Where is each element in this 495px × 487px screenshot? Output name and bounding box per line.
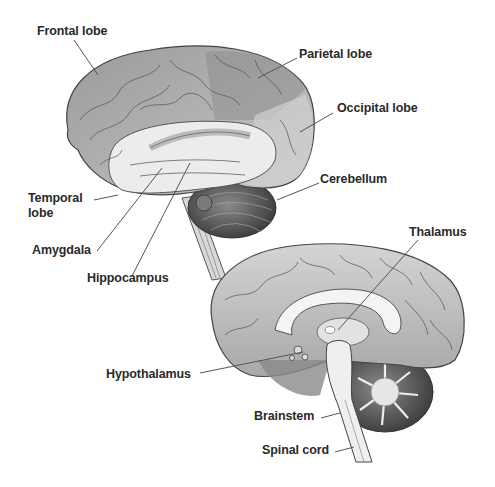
label-spinal-cord: Spinal cord [262, 443, 329, 458]
label-hippocampus: Hippocampus [87, 271, 169, 286]
label-amygdala: Amygdala [32, 243, 91, 258]
label-cerebellum: Cerebellum [320, 172, 387, 187]
label-temporal-line1: Temporal [28, 191, 83, 206]
label-temporal-lobe: Temporal lobe [28, 191, 83, 221]
label-frontal-lobe: Frontal lobe [37, 24, 107, 39]
sagittal-brain [211, 244, 464, 462]
label-brainstem: Brainstem [254, 409, 314, 424]
label-temporal-line2: lobe [28, 206, 83, 221]
label-thalamus: Thalamus [409, 225, 467, 240]
lateral-brain [67, 46, 315, 280]
label-occipital-lobe: Occipital lobe [337, 101, 418, 116]
label-hypothalamus: Hypothalamus [106, 367, 191, 382]
label-parietal-lobe: Parietal lobe [299, 47, 372, 62]
